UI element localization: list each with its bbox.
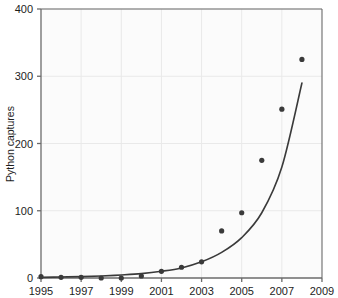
data-point <box>79 275 84 280</box>
y-tick-label: 400 <box>15 3 33 15</box>
y-tick-label: 0 <box>27 272 33 284</box>
x-tick-label: 1999 <box>109 285 133 297</box>
x-tick-label: 2003 <box>189 285 213 297</box>
x-tick-labels: 19951997199920012003200520072009 <box>29 285 334 297</box>
data-point <box>179 265 184 270</box>
data-point <box>139 273 144 278</box>
x-tick-label: 2009 <box>310 285 334 297</box>
x-tick-label: 1997 <box>69 285 93 297</box>
data-point <box>199 259 204 264</box>
y-tick-label: 200 <box>15 138 33 150</box>
data-point <box>119 275 124 280</box>
data-point <box>219 228 224 233</box>
y-axis-label: Python captures <box>4 106 16 182</box>
x-tick-label: 2005 <box>229 285 253 297</box>
y-tick-labels: 0100200300400 <box>15 3 33 284</box>
data-point <box>38 274 43 279</box>
data-point <box>159 269 164 274</box>
x-tick-label: 2007 <box>270 285 294 297</box>
y-tick-label: 100 <box>15 205 33 217</box>
data-point <box>259 158 264 163</box>
x-tick-label: 2001 <box>149 285 173 297</box>
data-point <box>239 210 244 215</box>
chart-svg: 0100200300400 19951997199920012003200520… <box>0 0 338 298</box>
python-captures-chart: 0100200300400 19951997199920012003200520… <box>0 0 338 298</box>
data-point <box>58 275 63 280</box>
data-point <box>279 107 284 112</box>
data-point <box>299 57 304 62</box>
x-tick-label: 1995 <box>29 285 53 297</box>
data-point <box>99 275 104 280</box>
y-tick-label: 300 <box>15 70 33 82</box>
